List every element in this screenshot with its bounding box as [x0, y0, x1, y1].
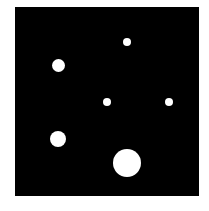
white-dot — [52, 59, 65, 72]
white-dot — [165, 98, 173, 106]
white-dot — [113, 149, 141, 177]
white-dot — [123, 38, 131, 46]
white-dot — [50, 131, 66, 147]
white-dot — [103, 98, 111, 106]
